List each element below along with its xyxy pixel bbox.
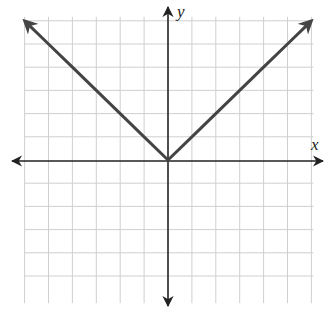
absolute-value-graph: x y: [0, 0, 326, 311]
x-axis-label: x: [310, 135, 319, 154]
y-axis-label: y: [175, 2, 185, 21]
